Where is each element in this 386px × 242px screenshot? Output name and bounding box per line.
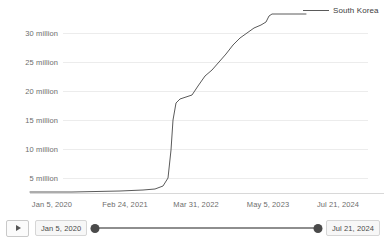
timeline-slider[interactable] [95, 221, 318, 236]
slider-selected-range [95, 227, 318, 229]
series-south-korea [0, 0, 386, 212]
slider-handle-end[interactable] [313, 224, 322, 233]
play-button[interactable] [6, 220, 29, 237]
timeline-start-date[interactable]: Jan 5, 2020 [35, 220, 87, 236]
play-icon [16, 225, 21, 231]
timeline-end-date[interactable]: Jul 21, 2024 [326, 220, 380, 236]
slider-handle-start[interactable] [91, 224, 100, 233]
legend-label-south-korea: South Korea [333, 6, 379, 15]
timeline-control: Jan 5, 2020 Jul 21, 2024 [0, 214, 386, 242]
chart-container: 5 million 10 million 15 million 20 milli… [0, 0, 386, 212]
legend: South Korea [303, 6, 379, 15]
chart-page: 5 million 10 million 15 million 20 milli… [0, 0, 386, 242]
plot-area: 5 million 10 million 15 million 20 milli… [0, 0, 386, 212]
legend-line-icon [303, 10, 329, 11]
